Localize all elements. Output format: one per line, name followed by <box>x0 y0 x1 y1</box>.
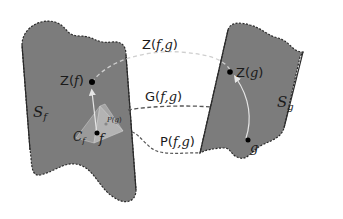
label-g: g <box>250 140 258 155</box>
point-zg <box>227 69 233 75</box>
diagram-canvas: Z(f) Z(g) Z(f,g) G(f,g) P(f,g) Sf Sg Cf … <box>0 0 343 219</box>
label-g-fg: G(f,g) <box>145 89 182 104</box>
label-p-fg: P(f,g) <box>160 134 195 149</box>
point-zf <box>89 79 95 85</box>
manifold-right-shape <box>200 23 303 158</box>
label-zg: Z(g) <box>236 65 263 80</box>
label-pg: P(g) <box>106 116 122 124</box>
diagram-svg: Z(f) Z(g) Z(f,g) G(f,g) P(f,g) Sf Sg Cf … <box>0 0 343 219</box>
label-zf: Z(f) <box>60 73 84 88</box>
connection-g-curve <box>128 106 212 110</box>
label-z-fg: Z(f,g) <box>142 37 178 52</box>
